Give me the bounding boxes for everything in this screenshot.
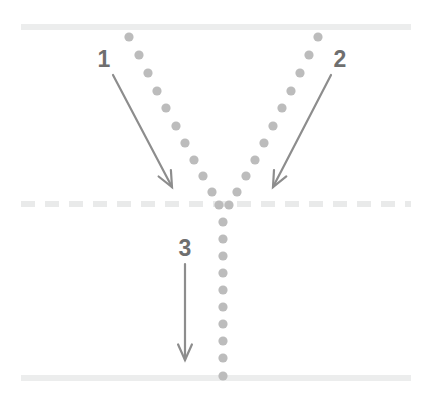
annotation-1: 1	[98, 46, 172, 187]
track-dot	[218, 371, 227, 380]
track-dot	[259, 138, 268, 147]
annotation-1-label: 1	[98, 46, 111, 72]
track-dot	[277, 103, 286, 112]
track-dot	[241, 171, 250, 180]
annotation-2-label: 2	[334, 46, 347, 72]
annotation-3-label: 3	[179, 235, 192, 261]
diagram-canvas: 123	[0, 0, 431, 402]
track-dot	[198, 171, 207, 180]
track-dot	[218, 336, 227, 345]
track-dot	[207, 187, 216, 196]
track-dot	[218, 251, 227, 260]
track-dot	[134, 50, 143, 59]
track-dot	[218, 353, 227, 362]
track-dot	[224, 200, 233, 209]
track-dot	[214, 200, 223, 209]
track-dot	[161, 103, 170, 112]
annotation-2: 2	[273, 46, 346, 187]
track-dot	[268, 121, 277, 130]
track-dot	[286, 86, 295, 95]
track-dot	[295, 68, 304, 77]
diagram-stage: 123	[0, 0, 431, 402]
track-dot	[218, 285, 227, 294]
left-branch-dot-track	[124, 32, 223, 209]
track-dot	[218, 319, 227, 328]
track-dot	[218, 268, 227, 277]
merged-stem-dot-track	[218, 217, 227, 380]
annotation-1-arrow-shaft	[113, 75, 172, 187]
track-dot	[232, 187, 241, 196]
track-dot	[250, 155, 259, 164]
track-dot	[143, 68, 152, 77]
annotation-3: 3	[178, 235, 192, 360]
track-dot	[152, 86, 161, 95]
track-dot	[313, 32, 322, 41]
track-dot	[171, 121, 180, 130]
track-dot	[218, 302, 227, 311]
track-dot	[124, 32, 133, 41]
track-dot	[218, 217, 227, 226]
track-dot	[189, 155, 198, 164]
track-dot	[218, 234, 227, 243]
track-dot	[304, 50, 313, 59]
annotation-2-arrow-shaft	[273, 75, 331, 187]
track-dot	[180, 138, 189, 147]
